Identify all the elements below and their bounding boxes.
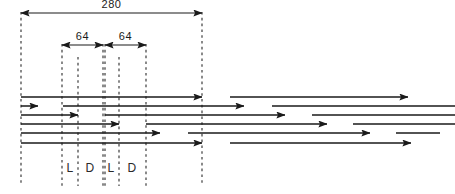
- zone-label-group: LDLD: [66, 161, 136, 175]
- overall-dimension-label: 280: [101, 0, 121, 10]
- diagram-canvas: 2806464 LDLD: [0, 0, 455, 194]
- dimension-diagram: 2806464 LDLD: [0, 0, 455, 194]
- zone-label-2: D: [85, 161, 94, 175]
- zone-label-4: D: [127, 161, 136, 175]
- zone-label-1: L: [66, 161, 73, 175]
- segment-dimension-1-label: 64: [76, 30, 89, 42]
- arrow-row-group: [21, 97, 455, 143]
- guide-line-group: [21, 12, 202, 186]
- dimension-group: 2806464: [21, 0, 202, 45]
- segment-dimension-2-label: 64: [119, 30, 132, 42]
- zone-label-3: L: [107, 161, 114, 175]
